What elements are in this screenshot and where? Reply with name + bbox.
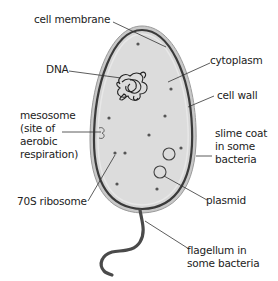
label-flagellum-2: some bacteria — [187, 257, 259, 270]
label-mesosome-4: respiration) — [20, 148, 78, 161]
label-plasmid: plasmid — [206, 194, 246, 207]
label-cell-membrane: cell membrane — [34, 13, 110, 26]
label-cytoplasm: cytoplasm — [210, 54, 262, 67]
flagellum — [101, 210, 143, 275]
label-ribosome: 70S ribosome — [17, 195, 87, 208]
label-dna: DNA — [46, 63, 69, 76]
label-slime-coat-1: slime coat — [215, 127, 267, 140]
label-mesosome-3: aerobic — [20, 135, 57, 148]
plasmid-upper — [163, 148, 175, 160]
label-mesosome-2: (site of — [20, 122, 55, 135]
label-mesosome-1: mesosome — [20, 109, 76, 122]
label-cell-wall: cell wall — [217, 89, 257, 102]
label-slime-coat-3: bacteria — [215, 153, 257, 166]
label-flagellum-1: flagellum in — [187, 244, 246, 257]
label-slime-coat-2: in some — [215, 140, 255, 153]
